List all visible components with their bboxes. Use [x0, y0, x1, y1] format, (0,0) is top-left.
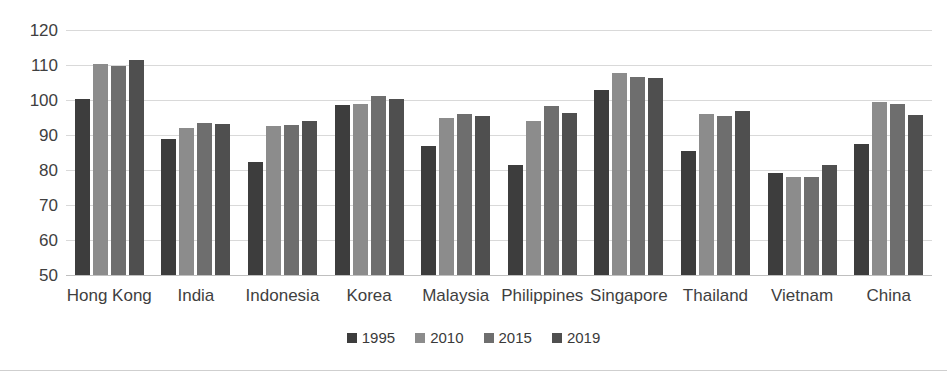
bar-1995-korea: [335, 105, 350, 275]
legend-swatch-icon: [552, 333, 562, 343]
bar-group: [239, 30, 326, 275]
y-tick-label: 100: [6, 92, 58, 109]
x-tick-label: Thailand: [672, 283, 759, 309]
bar-2015-philippines: [544, 106, 559, 275]
bar-2015-malaysia: [457, 114, 472, 275]
x-tick-label: Philippines: [499, 283, 586, 309]
bar-2019-malaysia: [475, 116, 490, 275]
bar-2019-korea: [389, 99, 404, 275]
bar-2010-malaysia: [439, 118, 454, 275]
legend-swatch-icon: [347, 333, 357, 343]
bar-2010-indonesia: [266, 126, 281, 275]
x-tick-label: Indonesia: [239, 283, 326, 309]
bar-chart: 1201101009080706050 Hong KongIndiaIndone…: [0, 0, 947, 379]
bar-group: [672, 30, 759, 275]
bar-group: [499, 30, 586, 275]
y-tick-label: 110: [6, 57, 58, 74]
legend-swatch-icon: [484, 333, 494, 343]
bar-1995-vietnam: [768, 173, 783, 275]
bar-2015-vietnam: [804, 177, 819, 275]
y-tick-label: 80: [6, 162, 58, 179]
y-tick-label: 120: [6, 22, 58, 39]
legend-item: 1995: [347, 330, 395, 345]
bar-2010-singapore: [612, 73, 627, 275]
bar-2015-hong-kong: [111, 66, 126, 275]
legend-item: 2010: [415, 330, 463, 345]
legend-item: 2019: [552, 330, 600, 345]
bar-2010-hong-kong: [93, 64, 108, 275]
bar-2019-thailand: [735, 111, 750, 276]
bar-group: [759, 30, 846, 275]
bar-2010-thailand: [699, 114, 714, 275]
bar-2015-singapore: [630, 77, 645, 275]
bar-group: [412, 30, 499, 275]
legend-swatch-icon: [415, 333, 425, 343]
bottom-divider: [0, 370, 947, 371]
legend-label: 1995: [362, 330, 395, 345]
legend-label: 2015: [499, 330, 532, 345]
legend-label: 2019: [567, 330, 600, 345]
y-axis: 1201101009080706050: [0, 30, 58, 275]
y-tick-label: 60: [6, 232, 58, 249]
legend-item: 2015: [484, 330, 532, 345]
x-tick-label: India: [153, 283, 240, 309]
x-axis-category-labels: Hong KongIndiaIndonesiaKoreaMalaysiaPhil…: [66, 283, 932, 309]
legend: 1995201020152019: [0, 330, 947, 345]
x-axis-line: [66, 275, 932, 276]
x-tick-label: Malaysia: [412, 283, 499, 309]
bar-group: [153, 30, 240, 275]
bar-2015-thailand: [717, 116, 732, 275]
bar-2019-hong-kong: [129, 60, 144, 275]
bar-2010-india: [179, 128, 194, 275]
bar-2015-indonesia: [284, 125, 299, 276]
bar-1995-thailand: [681, 151, 696, 275]
bar-1995-philippines: [508, 165, 523, 275]
bar-group: [586, 30, 673, 275]
bar-1995-indonesia: [248, 162, 263, 275]
bar-1995-hong-kong: [75, 99, 90, 275]
bar-groups: [66, 30, 932, 275]
x-tick-label: China: [845, 283, 932, 309]
bar-group: [66, 30, 153, 275]
bar-1995-malaysia: [421, 146, 436, 275]
bar-2010-vietnam: [786, 177, 801, 275]
bar-2015-china: [890, 104, 905, 276]
y-tick-label: 90: [6, 127, 58, 144]
y-tick-label: 50: [6, 267, 58, 284]
bar-group: [326, 30, 413, 275]
y-tick-label: 70: [6, 197, 58, 214]
bar-2019-singapore: [648, 78, 663, 275]
bar-2019-philippines: [562, 113, 577, 275]
bar-2015-india: [197, 123, 212, 275]
x-tick-label: Hong Kong: [66, 283, 153, 309]
bar-2010-china: [872, 102, 887, 275]
x-tick-label: Vietnam: [759, 283, 846, 309]
x-tick-label: Korea: [326, 283, 413, 309]
bar-1995-india: [161, 139, 176, 276]
bar-2010-philippines: [526, 121, 541, 275]
legend-label: 2010: [430, 330, 463, 345]
bar-group: [845, 30, 932, 275]
x-tick-label: Singapore: [586, 283, 673, 309]
bar-1995-china: [854, 144, 869, 275]
bar-2019-india: [215, 124, 230, 275]
bar-2015-korea: [371, 96, 386, 275]
bar-2019-vietnam: [822, 165, 837, 275]
bar-1995-singapore: [594, 90, 609, 276]
bar-2019-indonesia: [302, 121, 317, 275]
bar-2019-china: [908, 115, 923, 275]
bar-2010-korea: [353, 104, 368, 276]
plot-area: [66, 30, 932, 275]
